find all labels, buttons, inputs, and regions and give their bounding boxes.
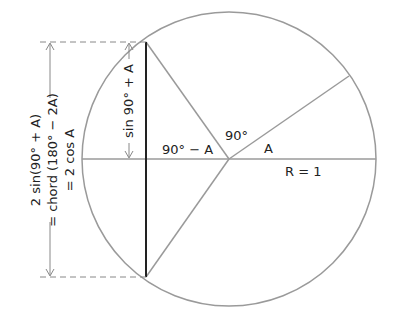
label-2sin: 2 sin(90° + A) bbox=[28, 114, 43, 206]
label-angle-90: 90° bbox=[225, 128, 248, 143]
radius-angle-A bbox=[229, 76, 349, 159]
label-angle-A: A bbox=[264, 141, 273, 156]
label-radius: R = 1 bbox=[285, 164, 321, 179]
label-angle-90-minus-A: 90° − A bbox=[162, 142, 213, 157]
label-sin: sin 90° + A bbox=[121, 64, 136, 138]
diagram-canvas: 2 sin(90° + A) = chord (180° − 2A) = 2 c… bbox=[0, 0, 396, 322]
label-chord: = chord (180° − 2A) bbox=[45, 93, 60, 227]
circle-chord-diagram: 2 sin(90° + A) = chord (180° − 2A) = 2 c… bbox=[0, 0, 396, 322]
radius-to-chord-bottom bbox=[146, 159, 229, 277]
label-2cos: = 2 cos A bbox=[62, 129, 77, 191]
